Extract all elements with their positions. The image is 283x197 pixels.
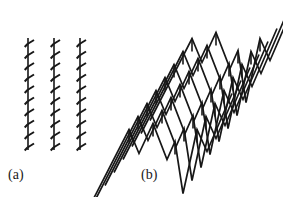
figure-container: (a) (b) xyxy=(0,0,283,197)
panel-b-label: (b) xyxy=(141,168,157,182)
panel-a-label: (a) xyxy=(8,168,24,182)
